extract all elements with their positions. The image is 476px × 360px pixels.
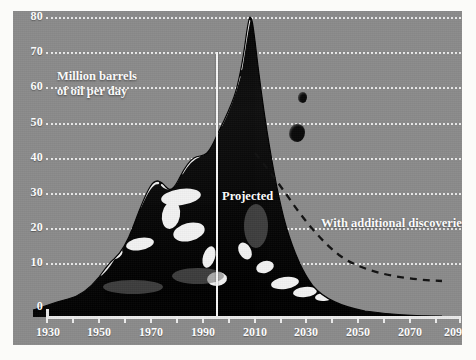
x-tick-2070: 2070	[398, 325, 422, 340]
x-tick-2030: 2030	[294, 325, 318, 340]
oil-production-chart-figure: 80 70 60 50 40 30 20 10 0	[0, 0, 476, 360]
chart-panel: 80 70 60 50 40 30 20 10 0	[13, 11, 462, 345]
y-axis: 80 70 60 50 40 30 20 10 0	[13, 11, 462, 345]
y-axis-caption-line1: Million barrels	[57, 69, 137, 83]
x-tick-1950: 1950	[87, 325, 111, 340]
y-tick-60: 60	[13, 79, 43, 94]
y-axis-caption-line2: of oil per day	[57, 84, 127, 98]
y-tick-10: 10	[13, 255, 43, 270]
x-tick-2090: 2090	[444, 325, 462, 340]
x-tick-1990: 1990	[191, 325, 215, 340]
y-tick-30: 30	[13, 185, 43, 200]
y-tick-40: 40	[13, 150, 43, 165]
x-tick-2010: 2010	[243, 325, 267, 340]
projected-label: Projected	[222, 189, 273, 203]
x-tick-2050: 2050	[346, 325, 370, 340]
y-tick-80: 80	[13, 11, 43, 24]
x-tick-1970: 1970	[139, 325, 163, 340]
additional-discoveries-label: With additional discoveries	[321, 216, 462, 230]
y-tick-70: 70	[13, 44, 43, 59]
y-tick-20: 20	[13, 220, 43, 235]
y-tick-0: 0	[13, 299, 43, 314]
x-tick-1930: 1930	[36, 325, 60, 340]
y-tick-50: 50	[13, 115, 43, 130]
